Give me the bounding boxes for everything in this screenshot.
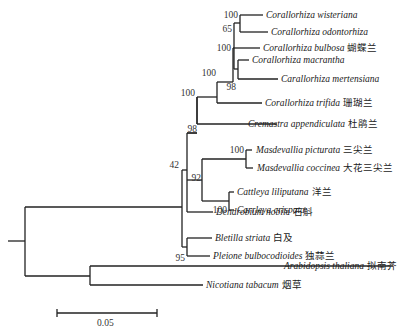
taxon-chinese: 大花三尖兰 xyxy=(343,163,393,173)
bootstrap-value: 98 xyxy=(183,124,197,134)
taxon-label: Masdevallia picturata三尖兰 xyxy=(256,145,373,156)
bootstrap-value: 92 xyxy=(188,173,201,183)
taxon-chinese: 独蒜兰 xyxy=(305,251,335,261)
bootstrap-value: 100 xyxy=(199,68,216,78)
bootstrap-value: 95 xyxy=(171,253,185,263)
taxon-label: Masdevallia coccinea大花三尖兰 xyxy=(257,163,393,174)
taxon-label: Bletilla striata白及 xyxy=(215,233,293,244)
bootstrap-value: 100 xyxy=(178,88,195,98)
taxon-label: Nicotiana tabacum烟草 xyxy=(206,280,302,291)
bootstrap-value: 100 xyxy=(214,43,231,53)
taxon-latin: Corallorhiza bulbosa xyxy=(263,43,344,53)
bootstrap-value: 98 xyxy=(222,82,236,92)
taxon-label: Arabidopsis thaliana拟南芥 xyxy=(284,261,397,272)
taxon-latin: Arabidopsis thaliana xyxy=(284,261,364,271)
taxon-latin: Corallorhiza macrantha xyxy=(252,55,344,65)
taxon-chinese: 三尖兰 xyxy=(343,145,373,155)
bootstrap-value: 100 xyxy=(227,145,244,155)
taxon-label: Cattleya liliputana洋兰 xyxy=(237,187,332,198)
taxon-latin: Nicotiana tabacum xyxy=(206,280,279,290)
taxon-label: Dendrobium nobile石斛 xyxy=(216,207,313,218)
taxon-latin: Masdevallia coccinea xyxy=(257,163,340,173)
taxon-chinese: 蝴蝶兰 xyxy=(347,43,377,53)
taxon-chinese: 白及 xyxy=(273,233,293,243)
taxon-label: Corallorhiza trifida珊瑚兰 xyxy=(265,98,373,109)
taxon-latin: Pleione bulbocodioides xyxy=(213,251,302,261)
taxon-chinese: 石斛 xyxy=(293,207,313,217)
taxon-chinese: 洋兰 xyxy=(312,187,332,197)
taxon-chinese: 杜鹃兰 xyxy=(348,119,378,129)
taxon-latin: Masdevallia picturata xyxy=(256,145,340,155)
taxon-label: Corallorhiza odontorhiza xyxy=(271,27,368,38)
taxon-label: Corallorhiza macrantha xyxy=(252,55,344,66)
taxon-latin: Corallorhiza trifida xyxy=(265,98,340,108)
taxon-chinese: 珊瑚兰 xyxy=(343,98,373,108)
taxon-label: Corallorhiza wisteriana xyxy=(266,10,357,21)
taxon-latin: Carallorhiza mertensiana xyxy=(281,74,379,84)
taxon-label: Carallorhiza mertensiana xyxy=(281,74,379,85)
bootstrap-value: 100 xyxy=(210,205,227,215)
taxon-latin: Cattleya liliputana xyxy=(237,187,309,197)
bootstrap-value: 100 xyxy=(222,10,238,20)
bootstrap-value: 42 xyxy=(165,160,179,170)
taxon-label: Cremastra appendiculata杜鹃兰 xyxy=(248,119,378,130)
bootstrap-value: 65 xyxy=(218,24,232,34)
taxon-chinese: 烟草 xyxy=(282,280,302,290)
taxon-latin: Corallorhiza wisteriana xyxy=(266,10,357,20)
taxon-chinese: 拟南芥 xyxy=(367,261,397,271)
taxon-label: Corallorhiza bulbosa蝴蝶兰 xyxy=(263,43,377,54)
taxon-latin: Corallorhiza odontorhiza xyxy=(271,27,368,37)
scale-bar-label: 0.05 xyxy=(97,318,114,328)
taxon-latin: Dendrobium nobile xyxy=(216,207,290,217)
taxon-latin: Cremastra appendiculata xyxy=(248,119,345,129)
taxon-latin: Bletilla striata xyxy=(215,233,270,243)
